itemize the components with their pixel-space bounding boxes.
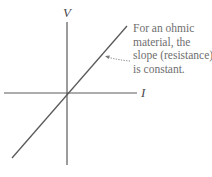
i-axis-label: I	[140, 85, 146, 100]
annotation-text: For an ohmic material, the slope (resist…	[133, 22, 212, 76]
ohmic-line	[12, 26, 127, 158]
annotation-line-2: material, the	[133, 36, 212, 50]
annotation-line-3: slope (resistance)	[133, 49, 212, 63]
dotted-arrow-icon	[105, 56, 130, 62]
annotation-line-1: For an ohmic	[133, 22, 212, 36]
v-axis-label: V	[63, 5, 73, 20]
annotation-line-4: is constant.	[133, 63, 212, 77]
